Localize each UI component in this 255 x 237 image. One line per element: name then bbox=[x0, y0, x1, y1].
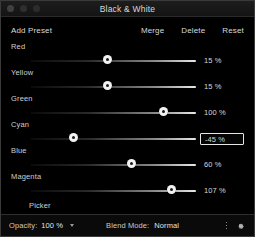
more-options-icon[interactable] bbox=[226, 222, 228, 230]
slider-value-cyan[interactable]: -45 % bbox=[200, 133, 244, 145]
blend-mode-label: Blend Mode: bbox=[106, 221, 149, 230]
slider-value-blue[interactable]: 60 % bbox=[200, 159, 244, 171]
bottom-toolbar-right bbox=[226, 221, 248, 230]
close-dot-icon[interactable] bbox=[7, 5, 14, 12]
traffic-light-group bbox=[1, 5, 40, 12]
slider-knob-yellow[interactable] bbox=[103, 81, 112, 90]
blend-mode-control[interactable]: Blend Mode: Normal bbox=[106, 221, 179, 230]
slider-value-green[interactable]: 100 % bbox=[200, 107, 244, 119]
gear-icon[interactable] bbox=[236, 221, 245, 230]
chevron-down-icon[interactable] bbox=[70, 224, 74, 227]
slider-row-cyan: Cyan -45 % bbox=[1, 120, 254, 146]
header-actions-group: Merge Delete Reset bbox=[141, 26, 246, 35]
slider-track-red[interactable]: 15 % bbox=[31, 56, 244, 66]
delete-button[interactable]: Delete bbox=[181, 26, 205, 35]
slider-track-green[interactable]: 100 % bbox=[31, 108, 244, 118]
blend-mode-value[interactable]: Normal bbox=[154, 221, 179, 230]
slider-label-yellow: Yellow bbox=[11, 68, 33, 77]
slider-track-magenta[interactable]: 107 % bbox=[31, 186, 244, 196]
slider-label-magenta: Magenta bbox=[11, 172, 41, 181]
slider-row-blue: Blue 60 % bbox=[1, 146, 254, 172]
minimize-dot-icon[interactable] bbox=[20, 5, 27, 12]
slider-value-red[interactable]: 15 % bbox=[200, 55, 244, 67]
add-preset-button[interactable]: Add Preset bbox=[11, 26, 52, 35]
picker-button[interactable]: Picker bbox=[29, 201, 51, 210]
opacity-value[interactable]: 100 % bbox=[41, 221, 63, 230]
slider-row-green: Green 100 % bbox=[1, 94, 254, 120]
slider-knob-cyan[interactable] bbox=[69, 133, 78, 142]
slider-track-blue[interactable]: 60 % bbox=[31, 160, 244, 170]
black-and-white-panel: Black & White Add Preset Merge Delete Re… bbox=[0, 0, 255, 237]
zoom-dot-icon[interactable] bbox=[33, 5, 40, 12]
slider-row-red: Red 15 % bbox=[1, 42, 254, 68]
reset-button[interactable]: Reset bbox=[222, 26, 244, 35]
slider-label-red: Red bbox=[11, 42, 25, 51]
opacity-label: Opacity: bbox=[9, 221, 37, 230]
slider-value-yellow[interactable]: 15 % bbox=[200, 81, 244, 93]
slider-label-green: Green bbox=[11, 94, 33, 103]
title-bar: Black & White bbox=[1, 1, 254, 17]
slider-row-magenta: Magenta 107 % bbox=[1, 172, 254, 198]
slider-label-cyan: Cyan bbox=[11, 120, 29, 129]
merge-button[interactable]: Merge bbox=[141, 26, 164, 35]
slider-knob-magenta[interactable] bbox=[167, 185, 176, 194]
slider-knob-red[interactable] bbox=[103, 55, 112, 64]
slider-row-yellow: Yellow 15 % bbox=[1, 68, 254, 94]
slider-track-yellow[interactable]: 15 % bbox=[31, 82, 244, 92]
slider-knob-green[interactable] bbox=[159, 107, 168, 116]
bottom-toolbar: Opacity: 100 % Blend Mode: Normal bbox=[1, 214, 254, 236]
opacity-control[interactable]: Opacity: 100 % bbox=[9, 221, 74, 230]
slider-knob-blue[interactable] bbox=[127, 159, 136, 168]
slider-list: Red 15 % Yellow 15 % Green 100 % bbox=[1, 40, 254, 198]
slider-label-blue: Blue bbox=[11, 146, 27, 155]
header-action-row: Add Preset Merge Delete Reset bbox=[1, 20, 254, 40]
slider-value-magenta[interactable]: 107 % bbox=[200, 185, 244, 197]
slider-track-cyan[interactable]: -45 % bbox=[31, 134, 244, 144]
